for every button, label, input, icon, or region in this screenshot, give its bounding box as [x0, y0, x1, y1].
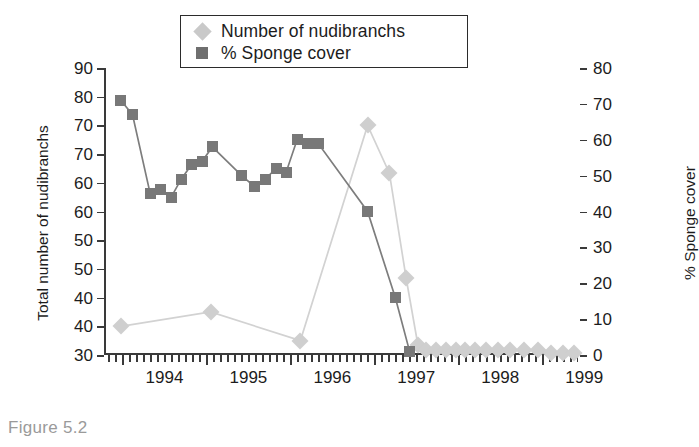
x-axis-minor-tick: [346, 355, 347, 362]
sponge-cover-data-point: [176, 174, 187, 185]
x-axis-minor-tick: [479, 355, 480, 362]
y-axis-right-tick: [580, 140, 587, 142]
y-axis-right-tick: [580, 283, 587, 285]
x-axis-minor-tick: [283, 355, 284, 362]
y-axis-left-tick: [97, 240, 104, 242]
y-axis-left-tick: [97, 97, 104, 99]
x-axis-major-tick: [374, 355, 376, 365]
x-axis-minor-tick: [318, 355, 319, 362]
y-axis-right-tick: [580, 247, 587, 249]
x-axis-minor-tick: [262, 355, 263, 362]
x-axis-tick-label: 1995: [229, 368, 267, 388]
x-axis-tick-label: 1996: [313, 368, 351, 388]
x-axis-minor-tick: [528, 355, 529, 362]
y-axis-left-tick: [97, 355, 104, 357]
y-axis-left-tick: [97, 212, 104, 214]
diamond-marker-icon: [191, 20, 213, 42]
y-axis-left-tick-label: 90: [74, 60, 93, 77]
y-axis-left-tick-label: 60: [74, 203, 93, 220]
y-axis-right-tick: [580, 104, 587, 106]
x-axis-minor-tick: [136, 355, 137, 362]
y-axis-left-tick: [97, 269, 104, 271]
x-axis-minor-tick: [150, 355, 151, 362]
y-axis-left-tick-label: 70: [74, 117, 93, 134]
legend-item-nudibranchs: Number of nudibranchs: [191, 20, 467, 42]
y-axis-left-tick-label: 40: [74, 318, 93, 335]
x-axis-minor-tick: [115, 355, 116, 362]
legend-label-sponge-cover: % Sponge cover: [221, 43, 351, 64]
y-axis-left-tick-label: 50: [74, 260, 93, 277]
y-axis-left-tick: [97, 68, 104, 70]
x-axis-minor-tick: [514, 355, 515, 362]
x-axis-minor-tick: [339, 355, 340, 362]
y-axis-left-tick: [97, 154, 104, 156]
y-axis-left-tick: [97, 183, 104, 185]
legend-label-nudibranchs: Number of nudibranchs: [221, 21, 405, 42]
x-axis-minor-tick: [241, 355, 242, 362]
x-axis-minor-tick: [178, 355, 179, 362]
x-axis-minor-tick: [304, 355, 305, 362]
y-axis-right-tick: [580, 176, 587, 178]
sponge-cover-data-point: [404, 346, 415, 357]
x-axis-minor-tick: [171, 355, 172, 362]
y-axis-left-tick-label: 50: [74, 232, 93, 249]
sponge-cover-data-point: [313, 138, 324, 149]
x-axis-minor-tick: [157, 355, 158, 362]
x-axis-minor-tick: [430, 355, 431, 362]
x-axis-minor-tick: [360, 355, 361, 362]
y-axis-right-tick-label: 40: [593, 203, 612, 220]
x-axis-minor-tick: [493, 355, 494, 362]
sponge-cover-data-point: [155, 184, 166, 195]
sponge-cover-data-point: [127, 109, 138, 120]
x-axis-minor-tick: [311, 355, 312, 362]
y-axis-left-tick: [97, 298, 104, 300]
sponge-cover-data-point: [166, 192, 177, 203]
x-axis-minor-tick: [276, 355, 277, 362]
x-axis-minor-tick: [192, 355, 193, 362]
x-axis-minor-tick: [416, 355, 417, 362]
y-axis-right-tick-label: 50: [593, 167, 612, 184]
x-axis-minor-tick: [388, 355, 389, 362]
y-axis-left-tick: [97, 125, 104, 127]
x-axis-minor-tick: [332, 355, 333, 362]
sponge-cover-data-point: [197, 156, 208, 167]
x-axis-minor-tick: [220, 355, 221, 362]
y-axis-right-tick-label: 60: [593, 131, 612, 148]
y-axis-left-tick-label: 40: [74, 289, 93, 306]
y-axis-right-tick: [580, 68, 587, 70]
x-axis-minor-tick: [269, 355, 270, 362]
x-axis-minor-tick: [297, 355, 298, 362]
x-axis-major-tick: [458, 355, 460, 365]
y-axis-right-tick-label: 20: [593, 275, 612, 292]
sponge-cover-data-point: [362, 206, 373, 217]
sponge-cover-data-point: [186, 159, 197, 170]
sponge-cover-data-point: [390, 292, 401, 303]
figure-caption: Figure 5.2: [8, 418, 88, 438]
y-axis-right-tick: [580, 355, 587, 357]
x-axis-minor-tick: [325, 355, 326, 362]
x-axis-minor-tick: [451, 355, 452, 362]
plot-area: 9080707060605050404030 80706050403020100…: [104, 68, 580, 355]
y-axis-right-tick-label: 80: [593, 60, 612, 77]
y-axis-right-tick: [580, 212, 587, 214]
x-axis-minor-tick: [227, 355, 228, 362]
y-axis-left-tick-label: 80: [74, 88, 93, 105]
y-axis-left-tick-label: 70: [74, 146, 93, 163]
sponge-cover-data-point: [249, 181, 260, 192]
x-axis-minor-tick: [381, 355, 382, 362]
x-axis-tick-label: 1998: [481, 368, 519, 388]
y-axis-left-tick-label: 60: [74, 174, 93, 191]
x-axis-tick-label: 1997: [397, 368, 435, 388]
x-axis-major-tick: [122, 355, 124, 365]
y-axis-right-tick-label: 70: [593, 95, 612, 112]
y-axis-right-tick-label: 10: [593, 311, 612, 328]
y-axis-right-title: % Sponge cover: [681, 103, 699, 343]
sponge-cover-data-point: [115, 95, 126, 106]
x-axis-tick-label: 1994: [146, 368, 184, 388]
legend-item-sponge-cover: % Sponge cover: [191, 42, 467, 64]
sponge-cover-data-point: [260, 174, 271, 185]
series-polylines: [104, 68, 580, 355]
sponge-cover-data-point: [236, 170, 247, 181]
y-axis-right-tick-label: 30: [593, 239, 612, 256]
x-axis-minor-tick: [185, 355, 186, 362]
